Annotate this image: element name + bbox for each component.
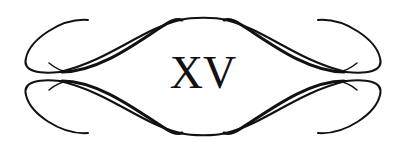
roman-numeral-title: XV bbox=[0, 50, 406, 96]
